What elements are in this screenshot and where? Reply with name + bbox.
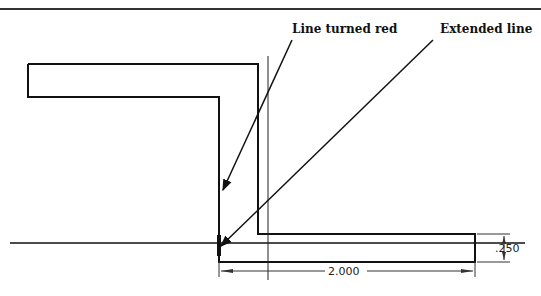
dim-arrow-right — [461, 269, 473, 273]
dim-arrow-left — [221, 269, 233, 273]
dimension-thickness-value[interactable]: .250 — [495, 242, 520, 255]
leader-extended-line — [221, 40, 433, 246]
cad-drawing: Line turned red Extended line 2.000 .250 — [0, 0, 541, 296]
dimension-length-value[interactable]: 2.000 — [328, 265, 360, 278]
callout-label-extended-line: Extended line — [440, 22, 533, 36]
part-profile[interactable] — [28, 64, 475, 262]
callout-label-line-turned-red: Line turned red — [292, 22, 398, 36]
